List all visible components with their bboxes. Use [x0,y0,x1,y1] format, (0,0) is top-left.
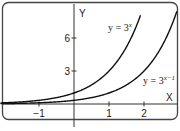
x-tick-label: 1 [106,108,112,119]
x-tick-label: 2 [141,108,147,119]
y-tick-label: 6 [64,33,70,44]
exponential-chart: −112 36 X Y y = 3x y = 3x−1 [0,0,180,131]
curve-3-pow-x-minus-1 [1,11,177,103]
x-axis-label: X [166,92,173,103]
curve-label-3-pow-x-minus-1: y = 3x−1 [143,74,175,86]
curve-label-3-pow-x: y = 3x [108,21,133,33]
y-ticks: 36 [64,33,76,77]
x-tick-label: −1 [33,108,45,119]
y-axis-label: Y [79,8,86,19]
y-tick-label: 3 [64,66,70,77]
